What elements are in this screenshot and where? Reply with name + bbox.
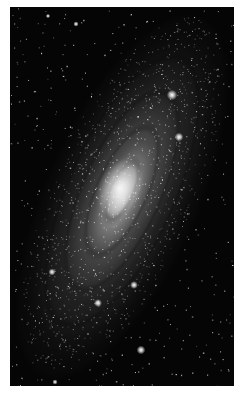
galaxy-photo — [10, 7, 234, 386]
starfield — [10, 7, 234, 386]
